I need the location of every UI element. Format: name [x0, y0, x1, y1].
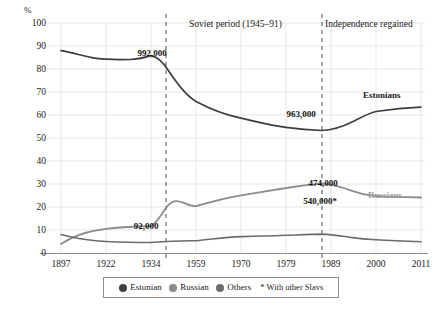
x-tick-1979: 1979 — [277, 259, 296, 269]
soviet-period-label: Soviet period (1945–91) — [189, 19, 282, 29]
x-tick-1989: 1989 — [322, 259, 341, 269]
x-tick-1970: 1970 — [232, 259, 251, 269]
y-tick-80: 80 — [20, 65, 46, 75]
y-tick-100: 100 — [20, 19, 46, 29]
annotation-russian-1989-top: 474,000 — [308, 179, 337, 188]
y-tick-20: 20 — [20, 203, 46, 213]
legend-dot-icon-russian — [169, 284, 177, 292]
x-tick-1959: 1959 — [187, 259, 206, 269]
y-tick-0: 0 — [20, 249, 46, 259]
annotation-estonian-1934: 992,000 — [137, 49, 166, 58]
y-tick-60: 60 — [20, 111, 46, 121]
x-tick-2011: 2011 — [412, 259, 431, 269]
x-tick-1897: 1897 — [52, 259, 71, 269]
legend-dot-icon-estonian — [119, 284, 127, 292]
chart-legend: Estonian Russian Others * With other Sla… — [103, 277, 339, 298]
legend-item-russian[interactable]: Russian — [169, 283, 209, 292]
annotation-estonian-1989: 963,000 — [286, 110, 315, 119]
annotation-russian-1989-bottom: 540,000* — [303, 197, 337, 206]
independence-regained-label: Independence regained — [325, 19, 413, 29]
y-tick-50: 50 — [20, 134, 46, 144]
legend-label-russian: Russian — [180, 283, 209, 292]
y-tick-90: 90 — [20, 42, 46, 52]
series-label-estonians: Estonians — [363, 91, 401, 100]
x-tick-2000: 2000 — [367, 259, 386, 269]
legend-footnote: * With other Slavs — [260, 283, 323, 292]
legend-label-estonian: Estonian — [130, 283, 162, 292]
x-tick-1922: 1922 — [97, 259, 116, 269]
annotation-russian-1934: 92,000 — [134, 222, 159, 231]
y-tick-70: 70 — [20, 88, 46, 98]
y-tick-10: 10 — [20, 226, 46, 236]
legend-item-estonian[interactable]: Estonian — [119, 283, 162, 292]
legend-dot-icon-others — [216, 284, 224, 292]
legend-label-others: Others — [227, 283, 251, 292]
y-tick-40: 40 — [20, 157, 46, 167]
x-tick-1934: 1934 — [142, 259, 161, 269]
population-share-line-chart: % 100 90 80 70 60 50 40 30 20 10 0 1897 … — [0, 0, 442, 315]
y-axis-unit-label: % — [24, 6, 32, 15]
y-tick-30: 30 — [20, 180, 46, 190]
series-label-russians: Russians — [368, 191, 402, 200]
legend-item-others[interactable]: Others — [216, 283, 252, 292]
